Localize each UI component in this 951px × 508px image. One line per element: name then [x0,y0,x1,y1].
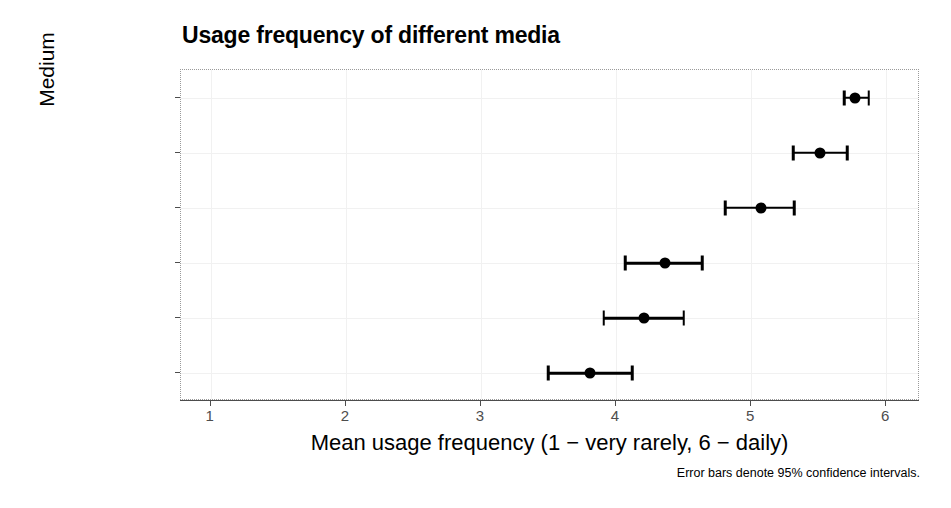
error-bar-cap-low [603,311,606,326]
gridline-vertical [481,70,482,399]
error-bar-cap-high [701,256,704,271]
gridline-vertical [886,70,887,399]
x-tick-label: 2 [325,407,365,424]
data-point [755,202,766,213]
x-tick-mark [750,401,751,406]
x-tick-mark [210,401,211,406]
data-point [585,368,596,379]
gridline-vertical [616,70,617,399]
data-point [850,92,861,103]
error-bar-cap-high [631,366,634,381]
chart-figure: Usage frequency of different media Mediu… [0,0,951,508]
gridline-vertical [211,70,212,399]
y-tick-mark [175,317,180,318]
x-tick-mark [345,401,346,406]
x-tick-label: 3 [460,407,500,424]
gridline-horizontal [181,208,918,209]
x-tick-mark [615,401,616,406]
error-bar-cap-low [792,145,795,160]
y-tick-mark [175,262,180,263]
error-bar-cap-high [846,145,849,160]
x-tick-label: 6 [865,407,905,424]
error-bar-cap-high [793,200,796,215]
x-axis-title: Mean usage frequency (1 − very rarely, 6… [180,430,919,456]
y-tick-mark [175,372,180,373]
chart-title: Usage frequency of different media [182,22,560,49]
chart-caption: Error bars denote 95% confidence interva… [180,466,920,480]
gridline-horizontal [181,318,918,319]
x-tick-mark [885,401,886,406]
gridline-horizontal [181,263,918,264]
y-tick-mark [175,152,180,153]
y-tick-mark [175,207,180,208]
gridline-horizontal [181,98,918,99]
data-point [639,313,650,324]
error-bar-cap-low [547,366,550,381]
error-bar-cap-high [867,90,870,105]
x-tick-label: 4 [595,407,635,424]
y-axis-title: Medium [35,0,65,235]
plot-panel [180,69,919,400]
error-bar-cap-low [724,200,727,215]
y-tick-mark [175,97,180,98]
data-point [815,147,826,158]
x-tick-label: 5 [730,407,770,424]
gridline-vertical [346,70,347,399]
gridline-vertical [751,70,752,399]
error-bar-cap-low [624,256,627,271]
error-bar-cap-high [682,311,685,326]
error-bar-cap-low [843,90,846,105]
data-point [659,258,670,269]
x-tick-label: 1 [190,407,230,424]
x-tick-mark [480,401,481,406]
x-axis-line [180,400,919,401]
